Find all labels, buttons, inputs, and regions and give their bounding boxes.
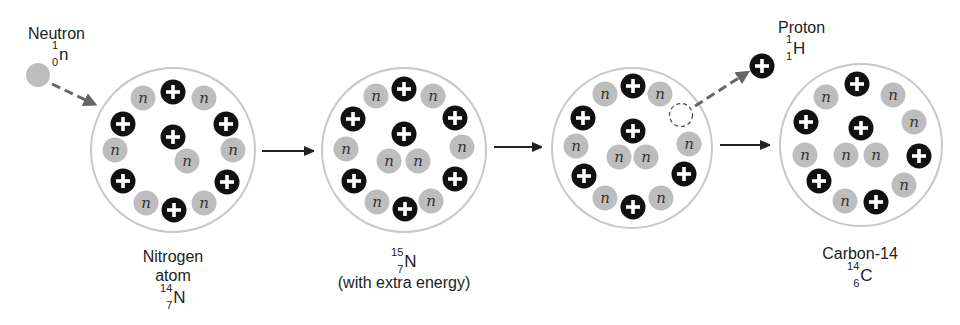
nucleus-carbon-14 [780, 64, 942, 226]
nucleus-nitrogen-14 [91, 68, 255, 232]
neutron-symbol: 1 0 n [58, 45, 68, 64]
neutron-path-arrow [52, 84, 92, 103]
proton-symbol: 1 1 H [792, 39, 805, 58]
outgoing-proton [750, 54, 775, 79]
neutron-label: Neutron 1 0 n [28, 24, 108, 64]
caption-nitrogen-15: 15 7 N (with extra energy) [329, 252, 479, 292]
isotope-n15: 15 7 N [403, 252, 416, 271]
vacated-proton-site [670, 104, 693, 127]
neutron-name: Neutron [28, 24, 108, 43]
incoming-neutron [26, 63, 50, 87]
isotope-n14: 14 7 N [172, 288, 185, 307]
caption-nitrogen-14: Nitrogen atom 14 7 N [118, 247, 228, 307]
proton-path-arrow [695, 74, 745, 106]
caption-carbon-14: Carbon-14 14 6 C [805, 244, 915, 285]
isotope-c14: 14 6 C [859, 266, 872, 285]
nucleus-proton-ejection [552, 68, 712, 228]
proton-label: Proton 1 1 H [778, 18, 858, 58]
nucleus-nitrogen-15 [322, 68, 486, 232]
